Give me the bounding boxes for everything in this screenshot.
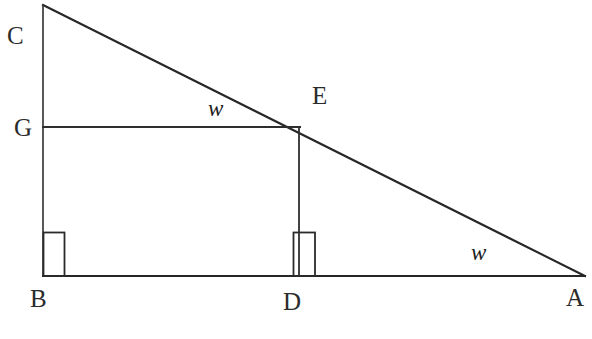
vertex-label-a: A bbox=[566, 285, 584, 310]
angle-label-w-upper: w bbox=[208, 97, 223, 120]
right-angle-mark-at-D bbox=[294, 233, 316, 277]
angle-label-w-lower: w bbox=[471, 241, 486, 264]
vertex-label-e: E bbox=[312, 83, 327, 108]
geometry-figure: C G E B D A w w bbox=[0, 0, 592, 339]
segment-hypotenuse-CA bbox=[43, 5, 585, 276]
vertex-label-c: C bbox=[7, 23, 24, 48]
vertex-label-d: D bbox=[283, 289, 301, 314]
right-angle-mark-at-B bbox=[44, 233, 65, 277]
vertex-label-g: G bbox=[14, 115, 32, 140]
vertex-label-b: B bbox=[30, 286, 47, 311]
